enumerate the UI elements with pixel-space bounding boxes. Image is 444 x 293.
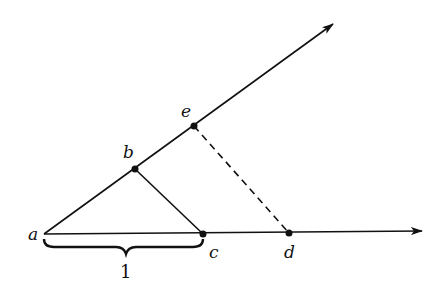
similar-triangles-diagram: a b c d e 1 [0, 0, 444, 293]
horizontal-ray [44, 231, 422, 234]
label-unit-length: 1 [120, 261, 131, 282]
segment-ed-dashed [194, 126, 289, 233]
point-c [200, 231, 207, 238]
point-e [191, 123, 198, 130]
label-d: d [284, 242, 295, 262]
point-d [286, 230, 293, 237]
point-b [132, 166, 139, 173]
segment-bc [135, 169, 203, 234]
label-a: a [28, 224, 38, 244]
diagram-canvas: a b c d e 1 [0, 0, 444, 293]
unit-brace [44, 239, 203, 254]
label-c: c [209, 242, 219, 262]
label-e: e [181, 101, 191, 121]
upper-ray [44, 24, 333, 234]
label-b: b [123, 142, 134, 162]
